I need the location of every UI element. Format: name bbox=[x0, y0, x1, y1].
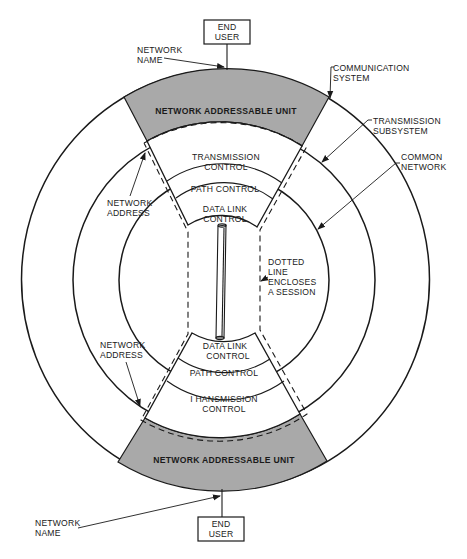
top-nau-label: NETWORK ADDRESSABLE UNIT bbox=[155, 106, 297, 116]
top-network-address-line2: ADDRESS bbox=[107, 208, 150, 218]
bottom-transmission-control-line2: CONTROL bbox=[202, 404, 245, 414]
bottom-network-name-line1: NETWORK bbox=[35, 518, 80, 528]
bottom-network-name-line2: NAME bbox=[35, 528, 61, 538]
bottom-data-link-control-line2: CONTROL bbox=[206, 351, 249, 361]
top-data-link-control-line1: DATA LINK bbox=[203, 204, 248, 214]
bottom-path-control: PATH CONTROL bbox=[190, 368, 258, 378]
bottom-network-address-line2: ADDRESS bbox=[100, 350, 143, 360]
communication-system-line1: COMMUNICATION bbox=[333, 63, 409, 73]
top-network-name-line1: NETWORK bbox=[137, 45, 182, 55]
session-note-arrow bbox=[261, 277, 268, 281]
bottom-nau-label: NETWORK ADDRESSABLE UNIT bbox=[153, 455, 295, 465]
transmission-subsystem-line1: TRANSMISSION bbox=[373, 116, 441, 126]
bottom-network-address-line1: NETWORK bbox=[100, 340, 145, 350]
bottom-transmission-control-line1: I HANSMISSION bbox=[190, 394, 258, 404]
top-network-name-line2: NAME bbox=[137, 55, 163, 65]
top-data-link-control-line2: CONTROL bbox=[203, 214, 246, 224]
sna-session-diagram: END USER END USER NETWORK NAME NETWORK N… bbox=[0, 0, 467, 559]
top-end-user-line1: END bbox=[218, 22, 237, 32]
bottom-data-link-control-line1: DATA LINK bbox=[203, 341, 248, 351]
session-note-line2: LINE bbox=[268, 267, 288, 277]
communication-system-line2: SYSTEM bbox=[333, 73, 370, 83]
top-path-control: PATH CONTROL bbox=[191, 184, 259, 194]
common-network-line1: COMMON bbox=[401, 152, 442, 162]
session-note-line4: A SESSION bbox=[268, 287, 316, 297]
session-note-line1: DOTTED bbox=[268, 257, 305, 267]
bottom-end-user-line2: USER bbox=[209, 529, 234, 539]
bottom-network-address-arrow bbox=[126, 362, 140, 406]
top-end-user-line2: USER bbox=[215, 32, 240, 42]
session-tube bbox=[216, 225, 226, 338]
session-note-line3: ENCLOSES bbox=[268, 277, 316, 287]
top-network-address-line1: NETWORK bbox=[107, 198, 152, 208]
transmission-subsystem-line2: SUBSYSTEM bbox=[373, 126, 428, 136]
bottom-end-user-line1: END bbox=[212, 519, 231, 529]
common-network-line2: NETWORK bbox=[401, 162, 446, 172]
top-transmission-control-line1: TRANSMISSION bbox=[192, 152, 260, 162]
top-network-name-arrow bbox=[164, 58, 224, 67]
top-transmission-control-line2: CONTROL bbox=[204, 162, 247, 172]
